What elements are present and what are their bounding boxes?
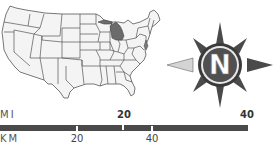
compass-north-letter: N	[209, 50, 231, 80]
scale-mi-label: MI	[0, 109, 16, 120]
scale-km-tick-40: 40	[146, 133, 159, 144]
scale-bar-line	[0, 125, 248, 131]
compass-rose-icon: N	[165, 20, 275, 110]
scale-km-label: KM	[0, 133, 19, 144]
scale-km-tick-20: 20	[71, 133, 84, 144]
scale-km-tickmark-20	[76, 126, 78, 131]
scale-mi-tick-20: 20	[117, 109, 131, 120]
scale-km-tickmark-40	[151, 126, 153, 131]
scale-bar: MI 20 40 KM 20 40	[0, 106, 280, 144]
scale-mi-tickmark-20	[122, 125, 124, 130]
us-map	[0, 0, 170, 102]
us-outline	[2, 6, 160, 98]
scale-mi-tick-40: 40	[240, 109, 254, 120]
